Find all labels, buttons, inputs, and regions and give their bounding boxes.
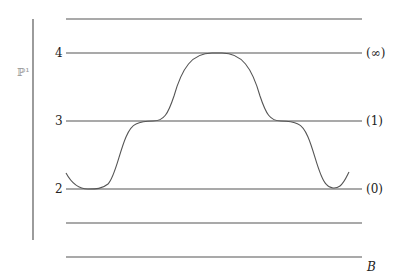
level-label-4: 4	[55, 46, 63, 60]
level-label-2: 2	[55, 182, 63, 196]
fiber-label-1: (1)	[366, 114, 383, 128]
base-label: B	[366, 260, 376, 274]
fiber-label-0: (0)	[366, 182, 383, 196]
p1-axis-label: ℙ¹	[17, 66, 30, 79]
diagram-canvas: ℙ¹ B 4 3 2 (∞) (1) (0)	[0, 0, 403, 279]
fiber-label-infinity: (∞)	[366, 46, 385, 60]
level-label-3: 3	[55, 114, 63, 128]
